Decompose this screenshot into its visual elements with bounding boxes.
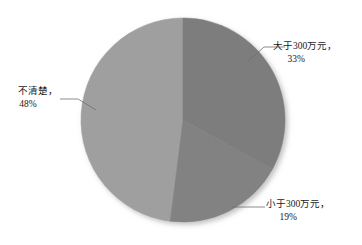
pie-slice-unknown[interactable] <box>81 18 183 221</box>
pie-label-small: 小于300万元， 19% <box>266 198 330 223</box>
pie-label-unknown-percent: 48% <box>18 98 58 111</box>
pie-chart-figure: 大于300万元， 33% 小于300万元， 19% 不清楚， 48% <box>0 0 362 245</box>
pie-label-unknown: 不清楚， 48% <box>18 85 58 110</box>
pie-label-large-name: 大于300万元， <box>273 40 337 53</box>
pie-label-unknown-name: 不清楚， <box>18 85 58 98</box>
pie-label-small-name: 小于300万元， <box>266 198 330 211</box>
pie-label-small-percent: 19% <box>266 211 330 224</box>
pie-label-large: 大于300万元， 33% <box>273 40 337 65</box>
pie-label-large-percent: 33% <box>273 53 337 66</box>
pie-slices-group <box>81 18 285 222</box>
